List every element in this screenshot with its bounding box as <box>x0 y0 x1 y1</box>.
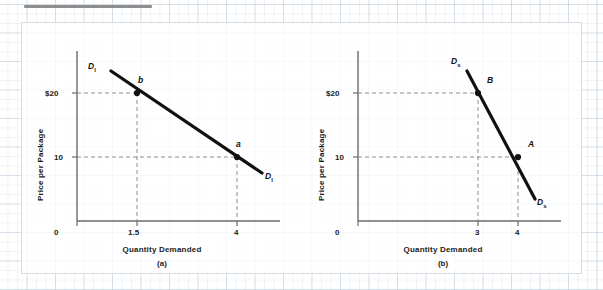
panel-a-curve-sub-bottom: l <box>271 177 273 183</box>
panel-a-caption: (a) <box>22 259 302 268</box>
panel-a-point-a-marker <box>234 154 240 160</box>
panel-b-point-B-label: B <box>487 75 493 85</box>
chart-panel-b: Price per Package $20 10 0 3 4 B A Ds <box>303 23 583 275</box>
panel-b-xtick-label-4: 4 <box>515 228 519 237</box>
panel-a-ytick-label-10: 10 <box>54 153 63 162</box>
panel-a-xtick-label-4: 4 <box>234 228 238 237</box>
chart-panel-a: Price per Package $20 10 0 <box>22 23 302 275</box>
panel-a-point-a-label: a <box>236 139 241 149</box>
panel-b-curve-sub-bottom: s <box>543 203 546 209</box>
panel-b-ytick-label-20: $20 <box>326 89 339 98</box>
top-rule-divider <box>24 5 152 8</box>
panel-b-ytick-label-10: 10 <box>335 153 344 162</box>
panel-a-x-axis-title: Quantity Demanded <box>22 245 302 254</box>
panel-a-plot-area <box>22 23 302 275</box>
panel-b-curve-sub-top: s <box>457 62 460 68</box>
panel-b-point-B-marker <box>475 90 481 96</box>
panel-a-curve-label-top: Dl <box>88 61 96 73</box>
panel-b-point-A-marker <box>515 154 521 160</box>
panel-a-xtick-label-1p5: 1.5 <box>128 228 139 237</box>
panel-b-curve-label-top: Ds <box>451 56 460 68</box>
panel-b-caption: (b) <box>303 259 583 268</box>
panel-a-ytick-label-20: $20 <box>45 89 58 98</box>
panel-b-xtick-label-0: 0 <box>335 228 339 237</box>
panel-b-curve-label-bottom: Ds <box>537 197 546 209</box>
panel-a-curve-label-bottom: Dl <box>265 171 273 183</box>
panel-a-xtick-label-0: 0 <box>54 228 58 237</box>
panel-a-curve-sub-top: l <box>94 67 96 73</box>
figure-panel: Price per Package $20 10 0 <box>21 22 582 274</box>
panel-a-point-b-marker <box>134 90 140 96</box>
panel-b-plot-area <box>303 23 583 275</box>
panel-b-point-A-label: A <box>528 139 534 149</box>
panel-a-point-b-label: b <box>138 75 143 85</box>
panel-b-xtick-label-3: 3 <box>475 228 479 237</box>
panel-b-x-axis-title: Quantity Demanded <box>303 245 583 254</box>
